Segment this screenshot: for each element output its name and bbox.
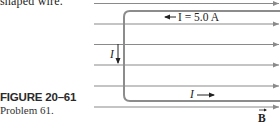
field-label-b: B: [258, 112, 266, 124]
current-label-bottom: I: [189, 88, 195, 100]
current-label-left: I: [109, 48, 115, 60]
figure-caption: Problem 61.: [0, 104, 54, 116]
current-label-top: I = 5.0 A: [178, 11, 220, 23]
figure-label: FIGURE 20–61: [0, 91, 76, 103]
